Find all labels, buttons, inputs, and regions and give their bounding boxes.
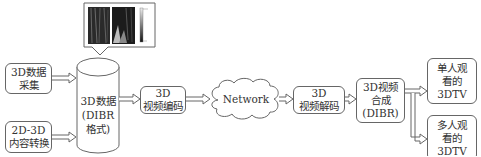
node-label-line: 内容转换 bbox=[9, 137, 49, 150]
node-3d-data-capture: 3D数据 采集 bbox=[5, 63, 52, 94]
node-label-line: 3D数据 bbox=[77, 94, 119, 108]
node-label-line: 看的 bbox=[442, 75, 462, 88]
diagram-canvas bbox=[0, 0, 481, 156]
node-label-line: 看的 bbox=[442, 132, 462, 145]
node-label: Network bbox=[223, 93, 269, 105]
arrow-conversion-to-storage bbox=[52, 132, 76, 142]
arrow-storage-to-encode bbox=[119, 94, 140, 104]
arrow-encode-to-network bbox=[186, 94, 210, 104]
depth-map-image bbox=[112, 7, 135, 44]
node-label-line: 3D bbox=[155, 87, 170, 100]
node-network: Network bbox=[218, 92, 274, 106]
node-2d-3d-conversion: 2D-3D 内容转换 bbox=[5, 121, 52, 153]
node-multi-viewer-3dtv: 多人观 看的 3DTV bbox=[427, 115, 477, 156]
node-label-line: 合成 bbox=[371, 94, 391, 107]
node-label-line: 视频解码 bbox=[299, 100, 339, 113]
node-label-line: 3D数据 bbox=[11, 66, 46, 79]
node-label-line: (DIBR) bbox=[362, 107, 398, 120]
node-label-line: 3D bbox=[311, 87, 326, 100]
node-label-line: 采集 bbox=[19, 79, 39, 92]
node-single-viewer-3dtv: 单人观 看的 3DTV bbox=[427, 58, 477, 104]
node-label-line: 单人观 bbox=[437, 62, 467, 75]
node-3d-data-dibr-storage: 3D数据 (DIBR 格式) bbox=[77, 94, 119, 136]
node-3d-video-decode: 3D 视频解码 bbox=[293, 86, 345, 114]
node-3d-video-encode: 3D 视频编码 bbox=[140, 86, 186, 114]
node-label-line: 3DTV bbox=[437, 88, 467, 101]
node-label-line: 3DTV bbox=[437, 145, 467, 157]
arrow-synthesis-to-single bbox=[405, 86, 427, 96]
arrow-network-to-decode bbox=[279, 94, 293, 104]
node-label-line: 多人观 bbox=[437, 119, 467, 132]
node-label-line: 3D视频 bbox=[363, 81, 398, 94]
node-label-line: 视频编码 bbox=[143, 100, 183, 113]
texture-image bbox=[88, 7, 110, 44]
node-label-line: (DIBR bbox=[77, 108, 119, 122]
node-3d-video-synthesis: 3D视频 合成 (DIBR) bbox=[356, 78, 405, 123]
node-label-line: 格式) bbox=[77, 122, 119, 136]
node-label-line: 2D-3D bbox=[12, 124, 46, 137]
arrow-synthesis-to-multi bbox=[411, 93, 427, 144]
arrow-decode-to-synthesis bbox=[345, 94, 356, 104]
image-callout bbox=[84, 3, 155, 55]
arrow-capture-to-storage bbox=[52, 73, 76, 83]
